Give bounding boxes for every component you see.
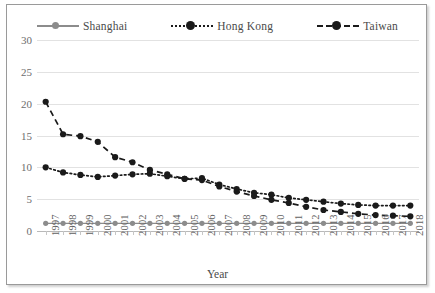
data-point[interactable]	[181, 176, 187, 182]
data-point[interactable]	[217, 221, 222, 226]
data-point[interactable]	[182, 221, 187, 226]
data-point[interactable]	[304, 221, 309, 226]
plot-area: 051015202530 199719981999200020012002200…	[7, 5, 428, 286]
data-point[interactable]	[286, 200, 292, 206]
chart-frame: Shanghai Hong Kong Taiwan 051015202530	[6, 4, 427, 285]
data-point[interactable]	[77, 172, 83, 178]
data-point[interactable]	[147, 221, 152, 226]
data-point[interactable]	[338, 209, 344, 215]
data-point[interactable]	[234, 221, 239, 226]
data-point[interactable]	[216, 183, 222, 189]
data-point[interactable]	[112, 173, 118, 179]
data-point[interactable]	[373, 221, 378, 226]
data-point[interactable]	[199, 221, 204, 226]
data-point[interactable]	[320, 207, 326, 213]
series-layer	[7, 5, 428, 286]
data-point[interactable]	[95, 221, 100, 226]
data-point[interactable]	[321, 221, 326, 226]
data-point[interactable]	[390, 213, 396, 219]
data-point[interactable]	[130, 221, 135, 226]
data-point[interactable]	[78, 221, 83, 226]
data-point[interactable]	[129, 171, 135, 177]
data-point[interactable]	[234, 188, 240, 194]
x-axis-title: Year	[7, 268, 428, 280]
data-point[interactable]	[286, 221, 291, 226]
data-point[interactable]	[320, 199, 326, 205]
data-point[interactable]	[113, 221, 118, 226]
data-point[interactable]	[372, 212, 378, 218]
data-point[interactable]	[164, 171, 170, 177]
data-point[interactable]	[251, 221, 256, 226]
data-point[interactable]	[269, 221, 274, 226]
chart-figure: Shanghai Hong Kong Taiwan 051015202530	[0, 0, 435, 293]
data-point[interactable]	[77, 133, 83, 139]
data-point[interactable]	[407, 202, 413, 208]
data-point[interactable]	[43, 164, 49, 170]
data-point[interactable]	[303, 204, 309, 210]
data-point[interactable]	[147, 167, 153, 173]
data-point[interactable]	[408, 221, 413, 226]
data-point[interactable]	[407, 213, 413, 219]
data-point[interactable]	[390, 202, 396, 208]
data-point[interactable]	[268, 197, 274, 203]
data-point[interactable]	[43, 99, 49, 105]
data-point[interactable]	[95, 139, 101, 145]
data-point[interactable]	[355, 211, 361, 217]
data-point[interactable]	[60, 169, 66, 175]
data-point[interactable]	[390, 221, 395, 226]
data-point[interactable]	[112, 154, 118, 160]
data-point[interactable]	[43, 221, 48, 226]
data-point[interactable]	[199, 177, 205, 183]
data-point[interactable]	[303, 197, 309, 203]
data-point[interactable]	[60, 131, 66, 137]
series-line-taiwan	[46, 102, 411, 217]
data-point[interactable]	[372, 202, 378, 208]
data-point[interactable]	[356, 221, 361, 226]
data-point[interactable]	[95, 174, 101, 180]
data-point[interactable]	[338, 221, 343, 226]
data-point[interactable]	[129, 159, 135, 165]
data-point[interactable]	[165, 221, 170, 226]
data-point[interactable]	[355, 202, 361, 208]
series-line-hong-kong	[46, 167, 411, 205]
data-point[interactable]	[60, 221, 65, 226]
data-point[interactable]	[251, 193, 257, 199]
data-point[interactable]	[338, 201, 344, 207]
